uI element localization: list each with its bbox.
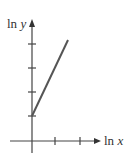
y-axis-label: ln y bbox=[7, 16, 26, 31]
data-line bbox=[32, 40, 68, 116]
x-axis-arrow-icon bbox=[94, 138, 101, 144]
log-log-line-chart: ln y ln x bbox=[0, 0, 131, 155]
x-axis-label: ln x bbox=[104, 133, 123, 148]
y-axis-label-fn: ln bbox=[7, 16, 18, 31]
x-axis-label-fn: ln bbox=[104, 133, 115, 148]
x-axis-label-var: x bbox=[116, 133, 123, 148]
y-axis-label-var: y bbox=[18, 16, 26, 31]
y-axis-arrow-icon bbox=[29, 19, 35, 27]
